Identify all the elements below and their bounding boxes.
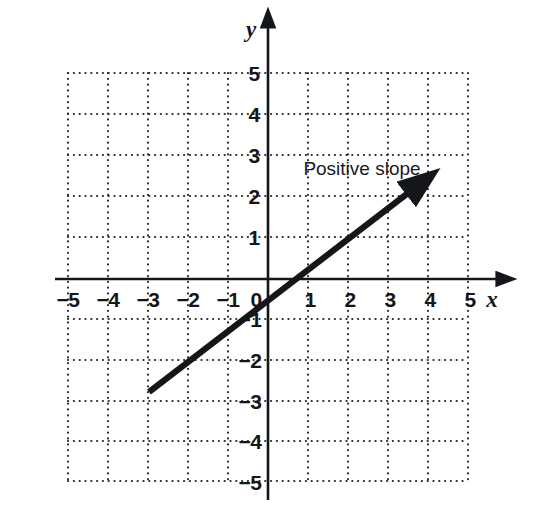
x-axis-label: x bbox=[486, 287, 498, 313]
positive-slope-annotation: Positive slope bbox=[303, 158, 420, 180]
x-tick-label-2: 2 bbox=[344, 288, 355, 312]
y-tick-label--3: −3 bbox=[239, 390, 262, 414]
y-tick-label-3: 3 bbox=[248, 144, 259, 168]
y-tick-label-4: 4 bbox=[248, 103, 259, 127]
x-tick-label--2: −2 bbox=[177, 288, 200, 312]
x-tick-label-1: 1 bbox=[304, 288, 315, 312]
x-tick-label--1: −1 bbox=[217, 288, 240, 312]
x-tick-label--3: −3 bbox=[137, 288, 160, 312]
y-tick-label-2: 2 bbox=[248, 185, 259, 209]
y-tick-label-5: 5 bbox=[248, 62, 259, 86]
y-tick-label--1: −1 bbox=[239, 308, 262, 332]
y-tick-label-1: 1 bbox=[248, 226, 259, 250]
y-tick-label--4: −4 bbox=[239, 430, 262, 454]
coordinate-plane-figure: −5 −4 −3 −2 −1 1 2 3 4 5 0 5 4 3 2 1 −1 … bbox=[0, 0, 534, 531]
y-tick-label--5: −5 bbox=[239, 471, 262, 495]
x-tick-label-3: 3 bbox=[384, 288, 395, 312]
y-axis-label: y bbox=[246, 17, 256, 43]
plot-canvas bbox=[0, 0, 534, 531]
x-tick-label-4: 4 bbox=[424, 288, 435, 312]
y-tick-label--2: −2 bbox=[239, 349, 262, 373]
x-tick-label--5: −5 bbox=[57, 288, 80, 312]
axis-lines bbox=[55, 26, 498, 500]
x-tick-label-5: 5 bbox=[464, 288, 475, 312]
x-tick-label--4: −4 bbox=[97, 288, 120, 312]
